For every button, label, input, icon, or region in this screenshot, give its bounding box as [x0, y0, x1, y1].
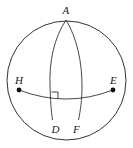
arc-H-E	[19, 90, 113, 99]
point-H	[17, 88, 22, 93]
sphere-diagram: A H E D F	[0, 0, 133, 148]
label-E: E	[109, 74, 117, 86]
label-A: A	[62, 4, 70, 16]
arc-A-D	[50, 20, 66, 120]
label-H: H	[14, 74, 24, 86]
sphere-outline	[7, 21, 126, 140]
arc-A-F	[66, 20, 82, 120]
right-angle-marker	[52, 92, 59, 99]
point-E	[111, 88, 116, 93]
label-F: F	[72, 123, 80, 135]
label-D: D	[51, 123, 60, 135]
